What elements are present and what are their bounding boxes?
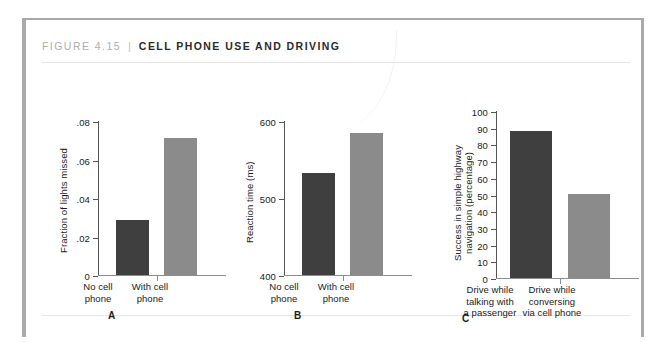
panel-c-y-tick-label: 10 — [477, 257, 488, 268]
panel-c-x-axis-line — [496, 278, 639, 279]
panel-a-x-axis-line — [98, 275, 226, 276]
panel-b-y-tick-label: 600 — [260, 117, 276, 128]
panel-a-bar-1 — [164, 138, 197, 275]
panel-a-y-tick — [93, 161, 98, 162]
figure-title-separator: | — [128, 40, 131, 52]
panel-c-y-tick-label: 100 — [472, 107, 488, 118]
panel-c-y-tick-label: 30 — [477, 223, 488, 234]
panel-b-y-tick-label: 400 — [260, 271, 276, 282]
panel-c-y-tick-label: 60 — [477, 173, 488, 184]
panel-c-y-tick-label: 80 — [477, 140, 488, 151]
panel-a-y-tick-label: 0 — [85, 271, 90, 282]
panel-b-plot-area: 400500600 — [284, 121, 394, 276]
panel-c-bar-1 — [568, 194, 610, 278]
figure-frame: FIGURE 4.15 | CELL PHONE USE AND DRIVING… — [22, 18, 644, 337]
panel-c-y-tick — [491, 262, 496, 263]
panel-c-letter: C — [462, 313, 469, 324]
panel-a-y-tick — [93, 199, 98, 200]
panel-b-y-tick — [279, 199, 284, 200]
panel-b-y-axis-title: Reaction time (ms) — [244, 127, 255, 277]
panel-c-bar-0 — [510, 131, 552, 278]
panel-a-y-tick — [93, 276, 98, 277]
panel-a-letter: A — [108, 310, 115, 321]
panel-c-y-tick — [491, 129, 496, 130]
panel-c-y-tick — [491, 279, 496, 280]
panel-a-y-axis-title: Fraction of lights missed — [58, 121, 69, 281]
panel-c-y-tick — [491, 112, 496, 113]
panel-b-y-tick-label: 500 — [260, 194, 276, 205]
panel-a-y-tick-label: .06 — [76, 155, 90, 166]
panel-c-y-tick — [491, 229, 496, 230]
panel-b-y-tick — [279, 122, 284, 123]
panel-c-y-tick-label: 0 — [483, 274, 488, 285]
panel-a-y-tick-label: .08 — [76, 117, 90, 128]
figure-header: FIGURE 4.15 | CELL PHONE USE AND DRIVING — [42, 40, 340, 52]
panel-a-y-tick — [93, 238, 98, 239]
panel-c-y-axis-title: Success in simple highway navigation (pe… — [452, 110, 474, 295]
panel-c-y-tick — [491, 212, 496, 213]
panel-c-y-tick-label: 70 — [477, 157, 488, 168]
panel-c-y-tick-label: 40 — [477, 207, 488, 218]
panel-b-y-axis-line — [284, 121, 285, 276]
panel-a-y-tick-label: .02 — [76, 232, 90, 243]
panel-c-y-tick — [491, 246, 496, 247]
panel-c-plot-area: 0102030405060708090100 — [496, 111, 621, 279]
panel-a-y-axis-line — [98, 121, 99, 276]
panel-a-y-tick-label: .04 — [76, 194, 90, 205]
panel-c-y-tick-label: 50 — [477, 190, 488, 201]
panel-b-bar-1 — [350, 133, 383, 275]
panel-a-x-label-0: No cell phone — [70, 281, 126, 304]
panel-c-y-tick — [491, 179, 496, 180]
panel-c-y-tick-label: 20 — [477, 240, 488, 251]
header-divider — [42, 62, 630, 63]
panel-a-bar-0 — [116, 220, 149, 275]
panel-c-y-tick — [491, 196, 496, 197]
panel-a-plot-area: 0.02.04.06.08 — [98, 121, 208, 276]
panel-a-y-tick — [93, 122, 98, 123]
panel-c-y-axis-line — [496, 111, 497, 279]
figure-title: CELL PHONE USE AND DRIVING — [139, 40, 341, 52]
figure-number: FIGURE 4.15 — [42, 40, 121, 52]
panel-c-y-tick-label: 90 — [477, 123, 488, 134]
panel-c-y-tick — [491, 145, 496, 146]
panel-b-bar-0 — [302, 173, 335, 275]
panel-a-x-label-1: With cell phone — [122, 281, 178, 304]
panel-b-x-label-1: With cell phone — [308, 281, 364, 304]
panel-b-y-tick — [279, 276, 284, 277]
panel-b-x-axis-line — [284, 275, 412, 276]
panel-c-x-label-1: Drive while conversing via cell phone — [518, 284, 586, 319]
panel-b-x-label-0: No cell phone — [256, 281, 312, 304]
panel-b-letter: B — [294, 310, 301, 321]
panel-c-y-tick — [491, 162, 496, 163]
